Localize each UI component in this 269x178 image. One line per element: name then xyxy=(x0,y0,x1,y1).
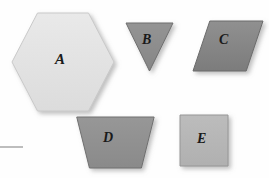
shape-parallelogram-c[interactable] xyxy=(193,21,263,71)
shape-hexagon-a[interactable] xyxy=(12,13,114,111)
square-icon xyxy=(180,115,228,166)
triangle-down-icon xyxy=(126,23,173,71)
trapezoid-icon xyxy=(63,117,161,168)
parallelogram-icon xyxy=(193,21,263,71)
shape-square-e[interactable] xyxy=(180,115,228,166)
margin-rule xyxy=(0,146,23,148)
shape-trapezoid-d[interactable] xyxy=(63,117,161,168)
shape-triangle-b[interactable] xyxy=(126,23,173,71)
shapes-figure: A B xyxy=(0,0,269,178)
hexagon-icon xyxy=(12,13,114,111)
